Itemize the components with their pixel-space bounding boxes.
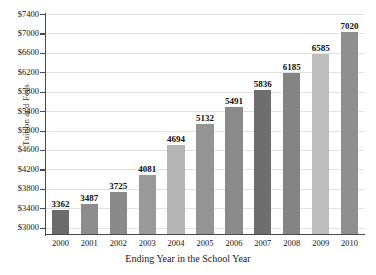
y-axis-tick-label: $7400	[0, 9, 39, 19]
x-axis-tick-label: 2002	[104, 238, 133, 248]
bar: 3487	[81, 204, 98, 234]
bar-value-label: 5132	[196, 113, 214, 123]
x-axis-line	[45, 234, 365, 235]
x-axis-tick-label: 2001	[75, 238, 104, 248]
gridline	[46, 14, 364, 15]
x-axis-tick-label: 2003	[133, 238, 162, 248]
bar-value-label: 3362	[51, 199, 69, 209]
bar-value-label: 4694	[167, 134, 185, 144]
bar: 3725	[110, 192, 127, 234]
y-axis-tick-label: $3400	[0, 203, 39, 213]
bar-value-label: 3725	[109, 181, 127, 191]
bar: 3362	[52, 210, 69, 234]
bar: 4081	[139, 175, 156, 234]
bar-value-label: 7020	[341, 21, 359, 31]
bar: 7020	[341, 32, 358, 234]
x-axis-tick-label: 2009	[306, 238, 335, 248]
x-axis-tick-label: 2007	[248, 238, 277, 248]
y-axis-tick-label: $3000	[0, 222, 39, 232]
bar-value-label: 4081	[138, 164, 156, 174]
y-axis-tick-label: $4600	[0, 144, 39, 154]
y-axis-tick-label: $4200	[0, 164, 39, 174]
x-axis-title: Ending Year in the School Year	[0, 253, 376, 264]
y-axis-tick-label: $3800	[0, 183, 39, 193]
x-axis-tick-label: 2008	[277, 238, 306, 248]
y-axis-tick-label: $5400	[0, 106, 39, 116]
y-axis-tick-label: $6200	[0, 67, 39, 77]
bar-value-label: 5491	[225, 96, 243, 106]
bar-chart-figure: Tuition and Fees $3000$3400$3800$4200$46…	[0, 0, 376, 275]
y-axis-tick-label: $7000	[0, 28, 39, 38]
bar-value-label: 6585	[312, 43, 330, 53]
y-axis-tick-label: $5000	[0, 125, 39, 135]
bar: 6585	[312, 54, 329, 234]
bar: 6185	[283, 73, 300, 234]
bar-value-label: 6185	[283, 62, 301, 72]
plot-area: 3362348737254081469451325491583661856585…	[46, 14, 364, 234]
bar: 5836	[254, 90, 271, 234]
gridline	[46, 33, 364, 34]
bar-value-label: 3487	[80, 193, 98, 203]
y-axis-tick-label: $5800	[0, 86, 39, 96]
bar: 5132	[196, 124, 213, 234]
x-axis-tick-label: 2006	[219, 238, 248, 248]
x-axis-tick-label: 2000	[46, 238, 75, 248]
bar: 4694	[167, 145, 184, 234]
bar: 5491	[225, 107, 242, 234]
y-axis-tick-label: $6600	[0, 47, 39, 57]
x-axis-tick-label: 2004	[162, 238, 191, 248]
bar-value-label: 5836	[254, 79, 272, 89]
x-axis-tick-label: 2010	[335, 238, 364, 248]
x-axis-tick-label: 2005	[191, 238, 220, 248]
